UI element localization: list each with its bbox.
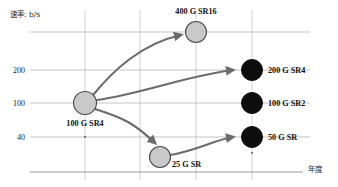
edge-100g-to-400g <box>93 35 181 95</box>
edge-25g-to-50g <box>170 137 233 155</box>
y-tick-40: 40 <box>17 133 25 142</box>
node-50g-sr[interactable] <box>242 127 263 148</box>
label-400g-sr16: 400 G SR16 <box>175 7 216 16</box>
label-200g-sr4: 200 G SR4 <box>268 66 305 75</box>
label-50g-sr: 50 G SR <box>268 133 297 142</box>
x-axis-title: 年度 <box>308 164 323 174</box>
node-400g-sr16[interactable] <box>186 22 207 43</box>
y-axis-title: 速率: b/s <box>10 9 40 19</box>
node-100g-sr2[interactable] <box>242 93 263 114</box>
chart-canvas: 速率: b/s 年度 200 100 40 400 G SR16 100 G S… <box>0 0 338 187</box>
edge-100g-to-200g <box>97 70 233 100</box>
label-100g-sr4-source: 100 G SR4 <box>66 119 103 128</box>
node-200g-sr4[interactable] <box>242 60 263 81</box>
node-100g-sr4-source[interactable] <box>74 92 97 115</box>
label-100g-sr2: 100 G SR2 <box>268 99 305 108</box>
ethernet-speed-roadmap-diagram: 速率: b/s 年度 200 100 40 400 G SR16 100 G S… <box>0 0 338 187</box>
edge-100g-to-25g <box>95 109 155 143</box>
node-25g-sr[interactable] <box>150 147 171 168</box>
label-25g-sr: 25 G SR <box>172 160 201 169</box>
y-tick-100: 100 <box>13 99 25 108</box>
tick-dot-2 <box>251 152 253 154</box>
tick-dot-1 <box>84 136 86 138</box>
y-tick-200: 200 <box>13 66 25 75</box>
